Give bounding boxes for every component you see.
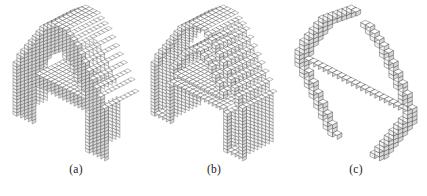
voxel-render-a <box>0 0 152 166</box>
figure-panel-c: (c) <box>285 0 427 196</box>
caption-panel-b: (b) <box>140 162 288 176</box>
caption-panel-c: (c) <box>285 162 427 176</box>
figure-panel-b: (b) <box>140 0 288 196</box>
voxel-render-b <box>140 0 288 166</box>
voxel-svg-a <box>0 0 152 166</box>
voxel-svg-b <box>140 0 288 166</box>
voxel-render-c <box>285 0 427 166</box>
figure-panel-a: (a) <box>0 0 152 196</box>
figure-container: (a) (b) (c) <box>0 0 427 196</box>
voxel-svg-c <box>285 0 427 166</box>
caption-panel-a: (a) <box>0 162 152 176</box>
